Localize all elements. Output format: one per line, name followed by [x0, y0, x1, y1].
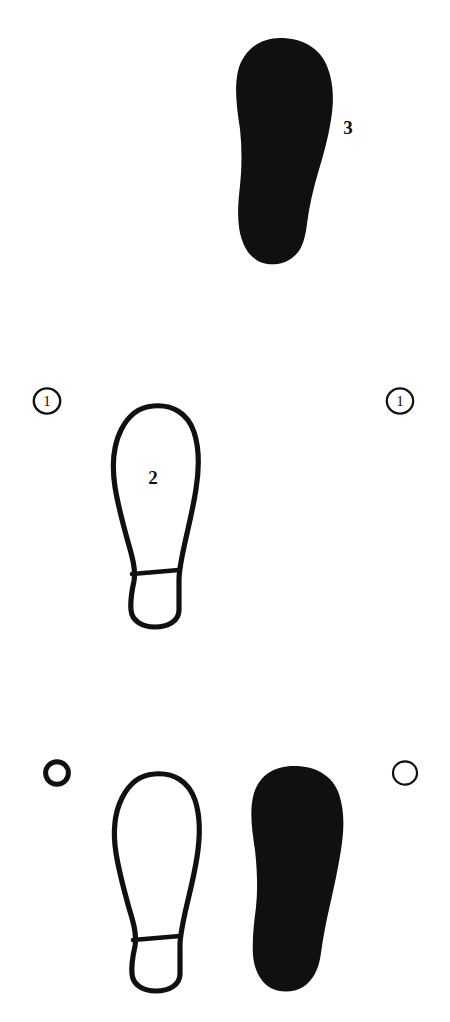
- marker-right-circle-thin: [389, 757, 421, 789]
- print-label-3: 3: [338, 118, 358, 137]
- circle-icon: [389, 757, 421, 789]
- marker-left-circle-thick: [41, 757, 73, 789]
- print-filled-top: [228, 36, 340, 268]
- marker-right-number: 1: [396, 394, 404, 409]
- print-label-2: 2: [143, 468, 163, 487]
- marker-left-circled-one: 1: [31, 385, 63, 417]
- print-outline-bottom: [97, 768, 213, 996]
- footprint-diagram: 3 1 1 2: [0, 0, 450, 1022]
- print-outline-middle: [97, 400, 213, 632]
- circle-icon: [41, 757, 73, 789]
- print-filled-bottom: [244, 764, 348, 994]
- marker-right-circled-one: 1: [384, 385, 416, 417]
- marker-left-number: 1: [43, 394, 51, 409]
